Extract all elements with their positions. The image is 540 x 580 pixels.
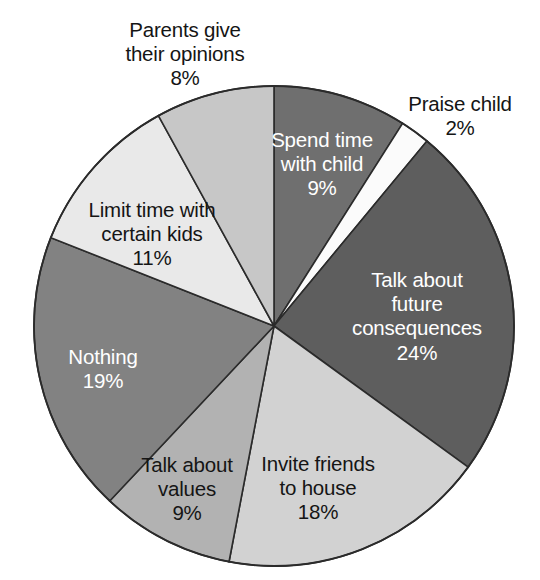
pie-slice-percent: 9% [77,501,297,525]
pie-slice-label: Parents give their opinions8% [75,18,295,91]
pie-slice-percent: 24% [307,341,527,365]
pie-slice-percent: 9% [212,176,432,200]
pie-slice-label-text: Parents give their opinions [125,18,244,65]
pie-slice-label: Nothing19% [0,345,213,393]
pie-slice-label-text: Talk about future consequences [352,268,482,339]
pie-slice-label-text: Talk about values [141,453,232,500]
pie-slice-label-text: Praise child [408,92,512,115]
pie-slice-label: Talk about future consequences24% [307,268,527,365]
pie-slice-percent: 19% [0,369,213,393]
pie-slice-percent: 2% [350,116,540,140]
pie-chart: Spend time with child9%Praise child2%Tal… [0,0,540,580]
pie-slice-percent: 11% [42,246,262,270]
pie-slice-percent: 8% [75,66,295,90]
pie-slice-label: Praise child2% [350,92,540,140]
pie-slice-label: Talk about values9% [77,453,297,526]
pie-slice-label: Limit time with certain kids11% [42,198,262,271]
pie-slice-label-text: Limit time with certain kids [89,198,216,245]
pie-slice-label-text: Nothing [68,345,137,368]
